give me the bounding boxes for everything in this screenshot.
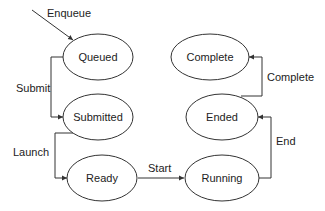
state-label: Ended (206, 111, 238, 123)
state-running: Running (185, 155, 259, 201)
state-label: Running (202, 172, 243, 184)
state-ready: Ready (67, 155, 137, 201)
edge-label-start: Start (148, 162, 171, 174)
state-label: Submitted (73, 111, 123, 123)
state-submitted: Submitted (63, 94, 133, 140)
edge-label-submit: Submit (16, 82, 50, 94)
state-label: Queued (78, 51, 117, 63)
state-queued: Queued (63, 34, 133, 80)
state-diagram: Enqueue Submit Launch Start End Complete… (0, 0, 325, 211)
edge-label-end: End (276, 135, 296, 147)
state-complete: Complete (171, 34, 249, 80)
edge-end (258, 117, 271, 178)
state-ended: Ended (186, 94, 258, 140)
state-label: Ready (86, 172, 118, 184)
edge-label-launch: Launch (13, 146, 49, 158)
edge-label-enqueue: Enqueue (47, 7, 91, 19)
state-label: Complete (186, 51, 233, 63)
edge-label-complete: Complete (267, 71, 314, 83)
edge-submit (51, 57, 64, 117)
